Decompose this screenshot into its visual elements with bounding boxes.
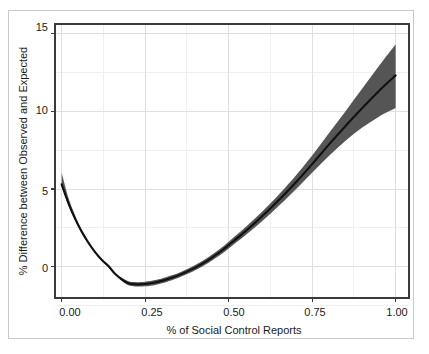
x-tick-label-0: 0.00 bbox=[59, 306, 80, 318]
y-axis-title: % Difference between Observed and Expect… bbox=[17, 47, 29, 276]
x-tick-label-3: 0.75 bbox=[304, 306, 325, 318]
y-tick-label-15: 15 bbox=[36, 21, 48, 33]
y-tick-label-0: 0 bbox=[42, 262, 48, 274]
x-axis-title: % of Social Control Reports bbox=[166, 324, 302, 336]
plot-background bbox=[55, 24, 409, 298]
x-tick-label-4: 1.00 bbox=[386, 306, 407, 318]
y-tick-label-5: 5 bbox=[42, 185, 48, 197]
figure-container: 15 10 5 0 0.00 0.25 0.50 0.75 1.00 % of … bbox=[0, 0, 429, 354]
x-tick-label-1: 0.25 bbox=[141, 306, 162, 318]
x-tick-label-2: 0.50 bbox=[223, 306, 244, 318]
line-chart-with-confidence-band: 15 10 5 0 0.00 0.25 0.50 0.75 1.00 % of … bbox=[0, 0, 429, 354]
y-tick-label-10: 10 bbox=[36, 104, 48, 116]
